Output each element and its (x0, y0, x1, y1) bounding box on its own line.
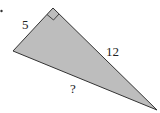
right-triangle (13, 8, 157, 110)
triangle-diagram: 5 12 ? (0, 0, 160, 113)
short-leg-label: 5 (22, 17, 29, 32)
hypotenuse-label: ? (70, 81, 76, 96)
corner-dot (0, 10, 2, 12)
long-leg-label: 12 (106, 44, 119, 59)
